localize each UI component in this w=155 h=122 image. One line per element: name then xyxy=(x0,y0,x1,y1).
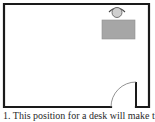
caption-text: 1. This position for a desk will make th… xyxy=(3,110,155,122)
door-swing-arc xyxy=(111,82,136,107)
person-icon xyxy=(109,8,125,18)
wall-outline xyxy=(4,4,149,107)
floor-plan xyxy=(0,0,155,122)
desk xyxy=(102,20,135,39)
head xyxy=(112,8,122,18)
room-walls xyxy=(4,4,149,107)
